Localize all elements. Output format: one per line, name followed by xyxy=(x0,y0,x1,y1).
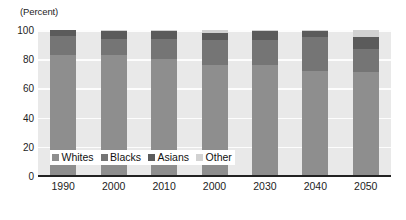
legend-label: Asians xyxy=(158,152,190,163)
legend-label: Blacks xyxy=(110,152,141,163)
legend-swatch-icon xyxy=(148,154,155,161)
bar-segment-whites xyxy=(302,71,328,176)
y-axis-tick-label: 40 xyxy=(2,112,34,123)
x-axis-tick-label: 2010 xyxy=(138,180,190,192)
bar-2030-4[interactable] xyxy=(252,30,278,176)
bar-segment-blacks xyxy=(50,36,76,55)
x-axis-tick-label: 2050 xyxy=(340,180,392,192)
bar-segment-blacks xyxy=(353,49,379,72)
bar-segment-whites xyxy=(252,65,278,176)
y-axis-tick-labels: 020406080100 xyxy=(0,0,34,220)
bar-segment-other xyxy=(151,30,177,31)
x-axis-tick-label: 2000 xyxy=(189,180,241,192)
bar-segment-other xyxy=(302,30,328,31)
legend-item-whites[interactable]: Whites xyxy=(52,152,94,163)
bar-segment-whites xyxy=(353,72,379,176)
x-axis-line xyxy=(38,175,391,177)
y-axis-tick-label: 20 xyxy=(2,141,34,152)
bar-2050-6[interactable] xyxy=(353,30,379,176)
bar-2040-5[interactable] xyxy=(302,30,328,176)
y-axis-tick-label: 100 xyxy=(2,25,34,36)
bar-segment-blacks xyxy=(101,39,127,55)
bar-segment-blacks xyxy=(202,40,228,65)
bar-segment-other xyxy=(252,30,278,31)
bar-segment-asians xyxy=(101,31,127,38)
bar-segment-other xyxy=(101,30,127,31)
x-axis-tick-label: 1990 xyxy=(37,180,89,192)
legend-swatch-icon xyxy=(52,154,59,161)
y-axis-tick-label: 60 xyxy=(2,83,34,94)
bar-segment-asians xyxy=(151,31,177,38)
legend-swatch-icon xyxy=(196,154,203,161)
y-axis-tick-label: 0 xyxy=(2,171,34,182)
x-axis-tick-label: 2000 xyxy=(88,180,140,192)
bar-segment-blacks xyxy=(151,39,177,59)
bar-segment-asians xyxy=(50,30,76,36)
bar-segment-asians xyxy=(302,31,328,37)
bar-segment-asians xyxy=(252,31,278,40)
x-axis-tick-label: 2030 xyxy=(239,180,291,192)
legend-item-blacks[interactable]: Blacks xyxy=(101,152,141,163)
x-axis-tick-label: 2040 xyxy=(289,180,341,192)
bar-segment-other xyxy=(202,30,228,33)
legend-label: Other xyxy=(206,152,232,163)
stacked-bar-chart: (Percent) 020406080100 19902000201020002… xyxy=(0,0,406,220)
legend-swatch-icon xyxy=(101,154,108,161)
bar-segment-asians xyxy=(202,33,228,40)
bar-segment-blacks xyxy=(302,37,328,71)
legend-item-asians[interactable]: Asians xyxy=(148,152,189,163)
y-axis-tick-label: 80 xyxy=(2,54,34,65)
legend-item-other[interactable]: Other xyxy=(196,152,232,163)
bar-segment-asians xyxy=(353,37,379,49)
legend-label: Whites xyxy=(62,152,94,163)
chart-legend: WhitesBlacksAsiansOther xyxy=(50,150,235,165)
bar-segment-other xyxy=(353,30,379,37)
bar-segment-blacks xyxy=(252,40,278,65)
